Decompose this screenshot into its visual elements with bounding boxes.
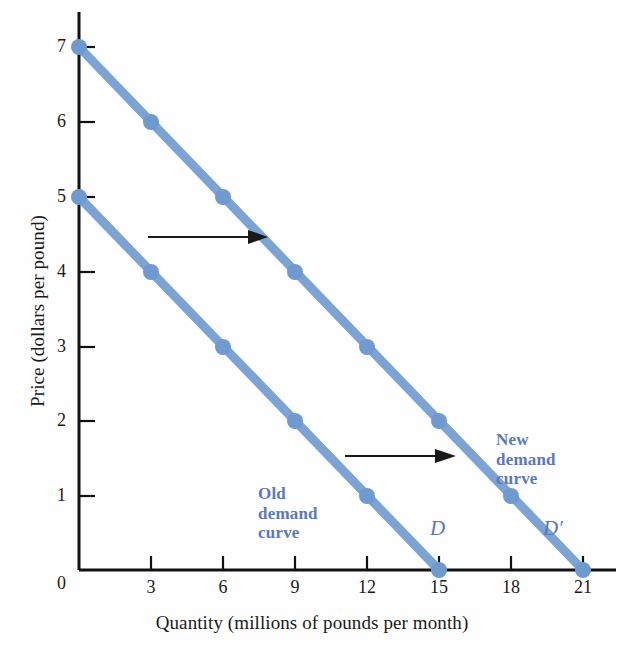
demand-curve-figure: 7 6 5 4 3 2 1 0 3 6 9 12 15 18 21 Price … <box>0 0 624 647</box>
x-tick-label-18: 18 <box>494 577 528 598</box>
y-axis-title: Price (dollars per pound) <box>27 121 49 501</box>
x-tick-label-15: 15 <box>422 577 456 598</box>
x-axis-title: Quantity (millions of pounds per month) <box>0 612 624 634</box>
shift-arrow-lower-icon <box>345 449 456 463</box>
x-tick-label-12: 12 <box>350 577 384 598</box>
y-tick-label-0: 0 <box>40 573 66 594</box>
x-tick-label-9: 9 <box>278 577 312 598</box>
shift-arrow-upper-icon <box>148 230 268 244</box>
demand-curve-symbol-d-prime: D′ <box>543 516 563 541</box>
demand-curve-symbol-d: D <box>430 516 445 541</box>
y-tick-marks <box>79 47 95 496</box>
chart-plot-area <box>0 0 624 647</box>
x-tick-marks <box>151 556 583 570</box>
x-tick-label-21: 21 <box>566 577 600 598</box>
x-tick-label-3: 3 <box>134 577 168 598</box>
y-tick-label-7: 7 <box>40 36 66 57</box>
new-demand-curve-label: New demand curve <box>496 430 556 489</box>
old-demand-curve-label: Old demand curve <box>258 484 318 543</box>
x-tick-label-6: 6 <box>206 577 240 598</box>
